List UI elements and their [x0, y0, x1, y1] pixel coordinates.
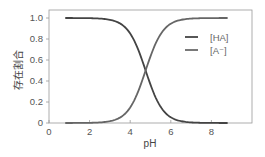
legend-label-a-minus: [A⁻] — [210, 45, 227, 56]
x-tick-label: 8 — [209, 126, 214, 137]
y-tick-label: 1.0 — [30, 12, 43, 23]
x-tick-label: 2 — [87, 126, 92, 137]
x-axis-title: pH — [144, 138, 157, 149]
legend: [HA] [A⁻] — [185, 32, 228, 56]
y-tick-label: 0.2 — [30, 96, 43, 107]
chart: 00.20.40.60.81.0 02468 [HA] [A⁻] pH 存在割合 — [0, 0, 265, 157]
y-tick-label: 0.6 — [30, 54, 43, 65]
y-tick-label: 0.8 — [30, 33, 43, 44]
series-line-a-minus — [65, 18, 227, 123]
x-tick-label: 4 — [128, 126, 133, 137]
y-tick-label: 0.4 — [30, 75, 43, 86]
y-axis-title: 存在割合 — [12, 50, 24, 90]
legend-label-ha: [HA] — [210, 32, 228, 43]
plot-frame — [49, 10, 252, 123]
y-tick-label: 0 — [38, 117, 43, 128]
x-tick-label: 0 — [46, 126, 51, 137]
y-axis: 00.20.40.60.81.0 — [30, 12, 49, 128]
x-tick-label: 6 — [168, 126, 173, 137]
